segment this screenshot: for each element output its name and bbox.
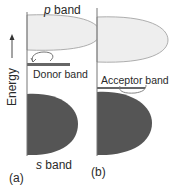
p-band-label: p band <box>44 4 81 16</box>
s-band-a <box>27 94 78 155</box>
energy-arrow-head <box>10 34 15 40</box>
acceptor-band-label: Acceptor band <box>101 75 169 86</box>
panel-b-label: (b) <box>91 166 106 178</box>
band-diagram: Energy p band Donor band Acceptor band s… <box>0 0 180 188</box>
p-band-b <box>97 17 168 62</box>
acceptor-band <box>97 87 145 89</box>
s-band-word: band <box>45 158 72 172</box>
acceptor-transition-arrow <box>120 85 146 93</box>
donor-band-label: Donor band <box>33 69 88 80</box>
diagram-graphics <box>0 0 180 188</box>
s-band-label: s band <box>36 159 72 171</box>
energy-axis-label: Energy <box>6 68 18 106</box>
s-band-b <box>97 92 152 155</box>
s-band-letter: s <box>36 158 42 172</box>
p-band-letter: p <box>44 3 51 17</box>
donor-transition-arrow <box>32 52 53 62</box>
donor-band <box>27 63 70 66</box>
p-band-word: band <box>54 3 81 17</box>
panel-a-label: (a) <box>9 172 24 184</box>
p-band-a <box>27 15 100 51</box>
